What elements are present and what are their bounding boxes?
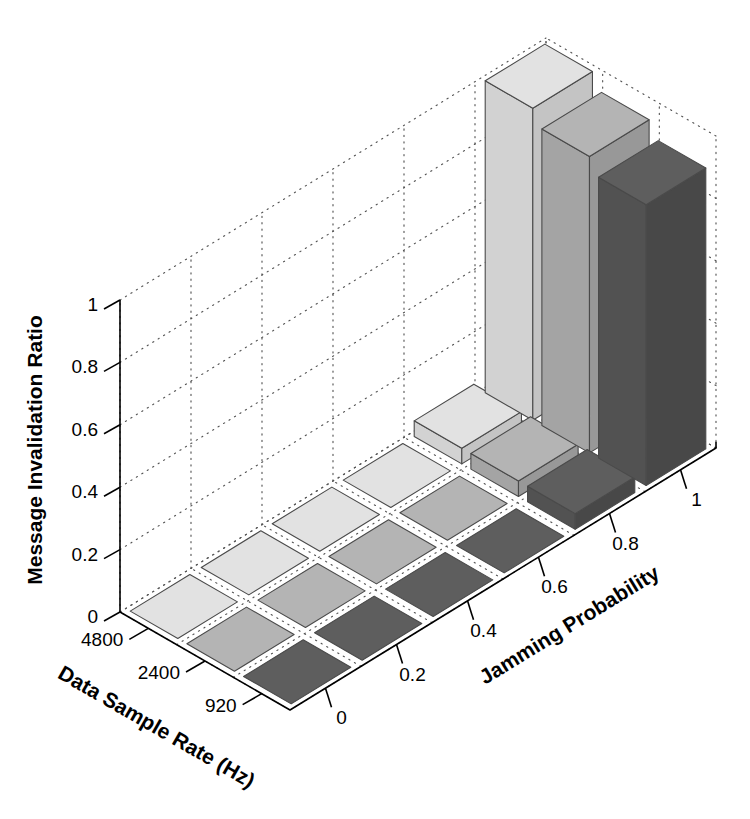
z-tick-label: 0: [87, 606, 98, 627]
z-tick-label: 0.2: [72, 544, 98, 565]
x-tick-label: 0: [336, 707, 347, 728]
bar3-chart: 10.80.60.40.204800240092000.20.40.60.81M…: [0, 0, 750, 819]
z-tick-mark: [104, 300, 120, 309]
x-tick-mark: [610, 514, 616, 533]
x-tick-label: 0.2: [399, 664, 425, 685]
bar-3d: [599, 141, 706, 486]
x-tick-mark: [468, 601, 474, 620]
y-tick-mark: [186, 661, 205, 672]
x-tick-mark: [326, 688, 332, 707]
z-tick-mark: [104, 487, 120, 496]
z-tick-mark: [104, 425, 120, 434]
z-tick-label: 0.6: [72, 419, 98, 440]
z-tick-label: 0.4: [72, 481, 99, 502]
z-tick-label: 0.8: [72, 356, 98, 377]
z-tick-mark: [104, 612, 120, 621]
x-tick-label: 0.6: [541, 576, 567, 597]
y-tick-mark: [243, 694, 262, 705]
x-tick-label: 0.4: [470, 620, 497, 641]
z-axis-title: Message Invalidation Ratio: [23, 315, 46, 585]
x-tick-mark: [397, 645, 403, 664]
y-tick-label: 920: [205, 695, 237, 716]
figure-canvas: 10.80.60.40.204800240092000.20.40.60.81M…: [0, 0, 750, 819]
z-tick-label: 1: [87, 294, 98, 315]
x-tick-mark: [539, 557, 545, 576]
z-tick-mark: [104, 550, 120, 559]
chart-scene: [120, 38, 716, 710]
z-tick-mark: [104, 362, 120, 371]
y-tick-label: 2400: [138, 662, 180, 683]
x-tick-label: 0.8: [612, 533, 638, 554]
y-tick-mark: [129, 628, 148, 639]
x-tick-mark: [681, 470, 687, 489]
y-tick-label: 4800: [81, 629, 123, 650]
x-tick-label: 1: [691, 489, 702, 510]
